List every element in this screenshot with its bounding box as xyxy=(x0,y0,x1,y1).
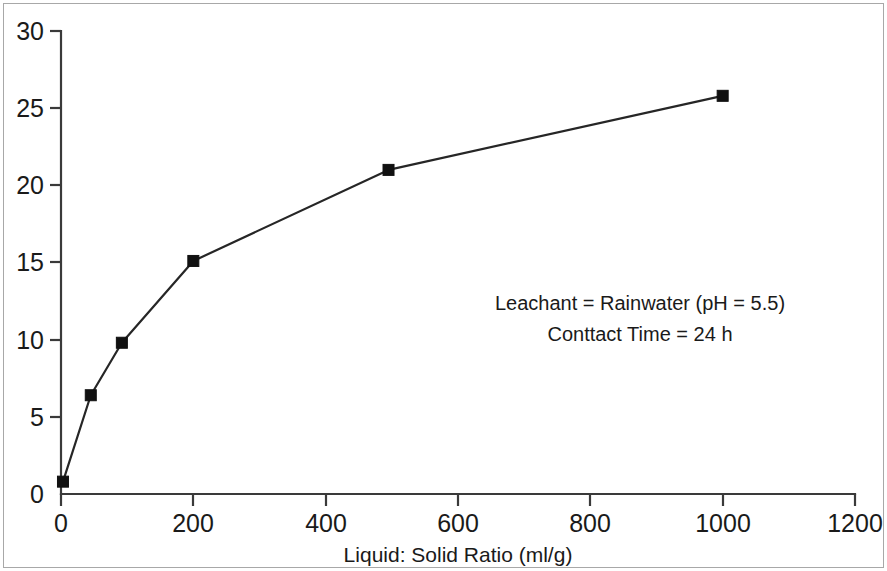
annotation-line-2: Conttact Time = 24 h xyxy=(547,323,732,345)
y-tick-label: 30 xyxy=(16,17,44,45)
data-series-group xyxy=(57,90,728,487)
data-point-marker xyxy=(85,390,96,401)
x-tick-label: 600 xyxy=(437,509,479,537)
y-tick-label: 10 xyxy=(16,326,44,354)
y-axis-tick-labels: 30 25 20 15 10 5 0 xyxy=(16,17,44,508)
y-tick-label: 0 xyxy=(30,480,44,508)
data-point-marker xyxy=(57,476,68,487)
x-axis-tick-labels: 0 200 400 600 800 1000 1200 xyxy=(54,509,883,537)
data-point-marker xyxy=(188,255,199,266)
data-series-line xyxy=(63,96,723,482)
x-tick-label: 800 xyxy=(569,509,611,537)
figure-container: 30 25 20 15 10 5 0 0 200 400 600 800 100… xyxy=(0,0,887,571)
annotation-line-1: Leachant = Rainwater (pH = 5.5) xyxy=(495,292,785,314)
y-tick-label: 5 xyxy=(30,403,44,431)
x-axis-ticks xyxy=(61,494,855,506)
x-tick-label: 400 xyxy=(305,509,347,537)
data-point-marker xyxy=(383,164,394,175)
data-point-marker xyxy=(116,337,127,348)
data-point-marker xyxy=(717,90,728,101)
x-axis-title: Liquid: Solid Ratio (ml/g) xyxy=(344,543,573,566)
x-tick-label: 1200 xyxy=(827,509,883,537)
x-tick-label: 1000 xyxy=(695,509,751,537)
y-axis-ticks xyxy=(50,31,61,417)
y-tick-label: 20 xyxy=(16,171,44,199)
x-tick-label: 0 xyxy=(54,509,68,537)
y-tick-label: 25 xyxy=(16,94,44,122)
line-chart: 30 25 20 15 10 5 0 0 200 400 600 800 100… xyxy=(0,0,887,571)
y-tick-label: 15 xyxy=(16,248,44,276)
data-series-markers xyxy=(57,90,728,487)
x-tick-label: 200 xyxy=(172,509,214,537)
chart-annotation: Leachant = Rainwater (pH = 5.5) Conttact… xyxy=(495,292,785,345)
